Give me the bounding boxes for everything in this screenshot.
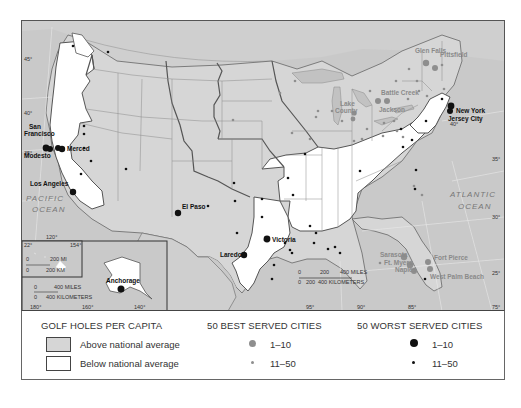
city-label-merced: Merced bbox=[67, 145, 90, 152]
scale-text: 200 bbox=[320, 269, 329, 275]
lat-tick: 35° bbox=[492, 156, 500, 162]
city-label-victoria: Victoria bbox=[272, 236, 296, 243]
scale-text: 400 MILES bbox=[340, 269, 368, 275]
city-label-lake-county: Lake bbox=[340, 100, 355, 107]
scale-text: 400 KILOMETERS bbox=[46, 294, 92, 300]
best-rank-1-label: 1–10 bbox=[270, 339, 291, 350]
pacific-ocean-label: PACIFIC bbox=[26, 194, 64, 203]
scale-text: 0 bbox=[298, 279, 301, 285]
map-frame: PACIFIC OCEAN ATLANTIC OCEAN 45° 40° 35°… bbox=[21, 20, 505, 312]
scale-text: 200 MI bbox=[50, 256, 67, 262]
city-label-san-francisco: San bbox=[29, 123, 41, 130]
inset-lon-tick: 120° bbox=[46, 234, 57, 240]
scale-text: 400 MILES bbox=[54, 284, 82, 290]
map-legend: GOLF HOLES PER CAPITA Above national ave… bbox=[21, 310, 505, 380]
lat-tick: 45° bbox=[24, 56, 32, 62]
scale-text: 200 bbox=[306, 279, 315, 285]
city-label-naples: Naples bbox=[395, 266, 417, 274]
city-label-battle-creek: Battle Creek bbox=[381, 89, 419, 96]
city-label-anchorage: Anchorage bbox=[106, 277, 140, 285]
worst-rank2-dot-icon bbox=[412, 361, 415, 364]
hawaii-lat-tick: 22° bbox=[24, 242, 32, 248]
above-average-label: Above national average bbox=[80, 339, 180, 350]
golf-holes-heading: GOLF HOLES PER CAPITA bbox=[41, 320, 162, 331]
scale-text: 0 bbox=[26, 256, 29, 262]
lat-tick: 25° bbox=[492, 270, 500, 276]
city-label-sarasota: Sarasota bbox=[380, 251, 408, 258]
scale-text: 0 bbox=[298, 269, 301, 275]
scale-text: 0 bbox=[26, 267, 29, 273]
city-label-laredo: Laredo bbox=[220, 251, 242, 258]
city-label-modesto: Modesto bbox=[24, 152, 51, 159]
best-top10-dot-icon bbox=[249, 340, 256, 347]
best-rank-2-label: 11–50 bbox=[270, 358, 296, 369]
worst-served-heading: 50 WORST SERVED CITIES bbox=[357, 320, 482, 331]
best-rank2-dot-icon bbox=[251, 361, 254, 364]
below-average-swatch bbox=[46, 356, 71, 371]
worst-top10-dot-icon bbox=[410, 339, 418, 347]
city-label-pittsfield: Pittsfield bbox=[440, 51, 467, 58]
city-label-el-paso: El Paso bbox=[182, 203, 206, 210]
scale-text: 0 bbox=[34, 294, 37, 300]
city-label-jackson: Jackson bbox=[379, 106, 405, 113]
city-label-new-york: New York bbox=[456, 107, 485, 114]
city-label-lake-county-2: County bbox=[335, 107, 358, 115]
atlantic-ocean-label-2: OCEAN bbox=[458, 202, 491, 211]
best-served-heading: 50 BEST SERVED CITIES bbox=[207, 320, 322, 331]
scale-text: 200 KM bbox=[46, 267, 65, 273]
scale-text: 400 KILOMETERS bbox=[318, 279, 364, 285]
worst-rank-2-label: 11–50 bbox=[432, 358, 458, 369]
scale-text: 0 bbox=[34, 284, 37, 290]
city-label-los-angeles: Los Angeles bbox=[30, 180, 69, 188]
worst-rank-1-label: 1–10 bbox=[432, 339, 453, 350]
lat-tick: 40° bbox=[24, 110, 32, 116]
pacific-ocean-label-2: OCEAN bbox=[32, 205, 65, 214]
hawaii-lon-tick: 154° bbox=[70, 242, 81, 248]
lat-tick: 30° bbox=[492, 214, 500, 220]
city-label-san-francisco-2: Francisco bbox=[24, 130, 55, 137]
city-label-west-palm-beach: West Palm Beach bbox=[430, 273, 484, 280]
below-average-label: Below national average bbox=[80, 358, 179, 369]
atlantic-ocean-label: ATLANTIC bbox=[449, 190, 496, 199]
above-average-swatch bbox=[46, 337, 71, 352]
city-label-jersey-city: Jersey City bbox=[448, 115, 483, 123]
us-golf-map: PACIFIC OCEAN ATLANTIC OCEAN 45° 40° 35°… bbox=[22, 21, 504, 311]
alaska-hawaii-inset: 22° 154° 120° 180° 160° 140° 0 200 MI 0 … bbox=[22, 234, 167, 311]
city-label-fort-pierce: Fort Pierce bbox=[434, 254, 468, 261]
